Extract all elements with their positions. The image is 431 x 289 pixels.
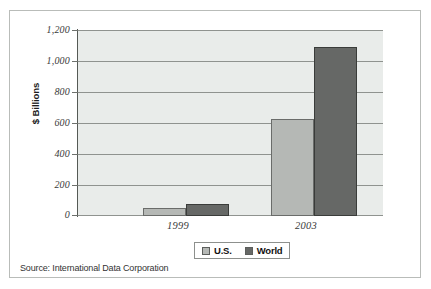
tick-mark-800 (72, 92, 78, 93)
light-gray-swatch-icon (202, 247, 210, 255)
plot-area (78, 30, 383, 216)
bar-us-1999[interactable] (143, 208, 186, 216)
y-tick-label-group: 1,200 1,000 800 600 400 200 0 (8, 0, 70, 289)
legend-item-world[interactable]: World (245, 245, 283, 256)
bar-us-2003[interactable] (271, 119, 314, 216)
legend-label-us: U.S. (214, 245, 232, 256)
x-tick-label-1999: 1999 (143, 220, 213, 231)
y-tick-label-0: 0 (14, 209, 70, 220)
y-tick-label-400: 400 (14, 148, 70, 159)
y-tick-label-1200: 1,200 (14, 24, 70, 35)
tick-mark-200 (72, 185, 78, 186)
tick-mark-1200 (72, 30, 78, 31)
bar-world-1999[interactable] (186, 204, 229, 216)
tick-mark-0 (72, 215, 78, 216)
legend-item-us[interactable]: U.S. (202, 245, 232, 256)
y-tick-label-200: 200 (14, 179, 70, 190)
dark-gray-swatch-icon (245, 247, 253, 255)
tick-mark-400 (72, 154, 78, 155)
tick-mark-600 (72, 123, 78, 124)
y-tick-label-600: 600 (14, 117, 70, 128)
source-note: Source: International Data Corporation (20, 263, 168, 273)
chart-legend[interactable]: U.S. World (194, 242, 290, 259)
y-tick-label-1000: 1,000 (14, 55, 70, 66)
legend-label-world: World (257, 245, 283, 256)
tick-mark-1000 (72, 61, 78, 62)
chart-figure: $ Billions 1,200 1,000 800 600 400 200 0… (0, 0, 431, 289)
x-tick-label-2003: 2003 (271, 220, 341, 231)
bar-world-2003[interactable] (314, 47, 357, 216)
y-tick-label-800: 800 (14, 86, 70, 97)
gridline-1200 (78, 30, 383, 31)
